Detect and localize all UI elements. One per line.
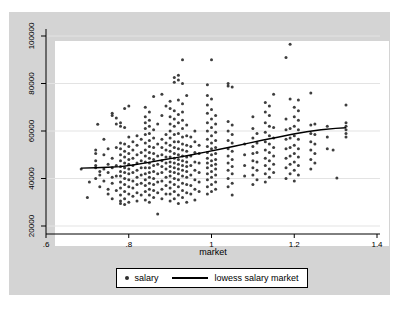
data-point bbox=[198, 190, 201, 193]
data-point bbox=[148, 188, 151, 191]
scatter-series-salary bbox=[80, 43, 348, 216]
data-point bbox=[345, 132, 348, 135]
data-point bbox=[231, 141, 234, 144]
data-point bbox=[144, 190, 147, 193]
data-point bbox=[136, 144, 139, 147]
data-point bbox=[173, 177, 176, 180]
data-point bbox=[251, 183, 254, 186]
data-point bbox=[160, 93, 163, 96]
data-point bbox=[127, 172, 130, 175]
data-point bbox=[119, 121, 122, 124]
data-point bbox=[227, 154, 230, 157]
data-point bbox=[123, 190, 126, 193]
data-point bbox=[123, 203, 126, 206]
data-point bbox=[293, 160, 296, 163]
data-point bbox=[136, 183, 139, 186]
data-point bbox=[193, 130, 196, 133]
data-point bbox=[136, 176, 139, 179]
data-point bbox=[88, 181, 91, 184]
data-point bbox=[173, 183, 176, 186]
data-point bbox=[140, 166, 143, 169]
data-point bbox=[169, 137, 172, 140]
data-point bbox=[285, 118, 288, 121]
data-point bbox=[289, 154, 292, 157]
data-point bbox=[227, 169, 230, 172]
data-point bbox=[268, 143, 271, 146]
data-point bbox=[173, 190, 176, 193]
data-point bbox=[210, 183, 213, 186]
data-point bbox=[181, 143, 184, 146]
data-point bbox=[156, 143, 159, 146]
data-point bbox=[165, 105, 168, 108]
data-point bbox=[169, 100, 172, 103]
data-point bbox=[94, 177, 97, 180]
y-tick-label: 40000 bbox=[27, 167, 36, 190]
data-point bbox=[144, 121, 147, 124]
data-point bbox=[173, 118, 176, 121]
data-point bbox=[177, 147, 180, 150]
data-point bbox=[231, 165, 234, 168]
data-point bbox=[210, 159, 213, 162]
data-point bbox=[156, 172, 159, 175]
data-point bbox=[289, 43, 292, 46]
data-point bbox=[127, 135, 130, 138]
data-point bbox=[152, 128, 155, 131]
data-point bbox=[127, 145, 130, 148]
axis-tick-labels: 20000400006000080000100000.6.811.21.4 bbox=[27, 22, 383, 249]
data-point bbox=[165, 184, 168, 187]
data-point bbox=[160, 114, 163, 117]
data-point bbox=[227, 130, 230, 133]
data-point bbox=[148, 166, 151, 169]
data-point bbox=[297, 138, 300, 141]
data-point bbox=[111, 176, 114, 179]
data-point bbox=[227, 120, 230, 123]
data-point bbox=[264, 121, 267, 124]
data-point bbox=[210, 147, 213, 150]
data-point bbox=[210, 153, 213, 156]
data-point bbox=[268, 105, 271, 108]
legend-label-lowess: lowess salary market bbox=[214, 273, 298, 283]
data-point bbox=[169, 192, 172, 195]
data-point bbox=[156, 163, 159, 166]
data-point bbox=[293, 152, 296, 155]
data-point bbox=[326, 147, 329, 150]
data-point bbox=[148, 139, 151, 142]
data-point bbox=[185, 144, 188, 147]
data-point bbox=[94, 149, 97, 152]
data-point bbox=[185, 191, 188, 194]
data-point bbox=[96, 123, 99, 126]
data-point bbox=[148, 182, 151, 185]
data-point bbox=[206, 94, 209, 97]
data-point bbox=[177, 132, 180, 135]
data-point bbox=[185, 124, 188, 127]
data-point bbox=[98, 170, 101, 173]
data-point bbox=[264, 101, 267, 104]
data-point bbox=[214, 114, 217, 117]
y-tick-label: 80000 bbox=[27, 72, 36, 95]
data-point bbox=[313, 162, 316, 165]
data-point bbox=[102, 179, 105, 182]
data-point bbox=[119, 187, 122, 190]
data-point bbox=[181, 175, 184, 178]
data-point bbox=[214, 146, 217, 149]
data-point bbox=[177, 99, 180, 102]
data-point bbox=[272, 126, 275, 129]
data-point bbox=[156, 122, 159, 125]
data-point bbox=[181, 196, 184, 199]
data-point bbox=[251, 127, 254, 130]
data-point bbox=[193, 188, 196, 191]
data-point bbox=[156, 213, 159, 216]
data-point bbox=[264, 149, 267, 152]
data-point bbox=[181, 169, 184, 172]
x-axis-title: market bbox=[46, 247, 380, 257]
data-point bbox=[177, 78, 180, 81]
data-point bbox=[289, 137, 292, 140]
data-point bbox=[119, 159, 122, 162]
data-point bbox=[251, 166, 254, 169]
data-point bbox=[206, 138, 209, 141]
data-point bbox=[165, 149, 168, 152]
data-point bbox=[309, 168, 312, 171]
data-point bbox=[177, 158, 180, 161]
data-point bbox=[119, 147, 122, 150]
data-point bbox=[177, 185, 180, 188]
